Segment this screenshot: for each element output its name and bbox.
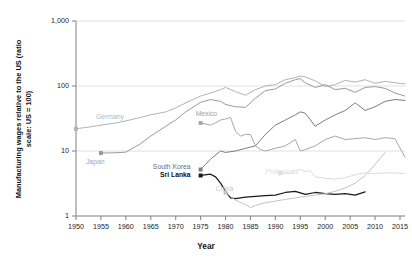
- series-line-germany: [76, 76, 405, 129]
- y-tick-label: 100: [35, 81, 69, 90]
- series-marker-germany: [74, 127, 78, 131]
- y-axis-title-text: Manufacturing wages relative to the US (…: [14, 34, 33, 204]
- series-marker-sri-lanka: [199, 173, 203, 177]
- series-marker-mexico: [199, 121, 203, 125]
- series-line-philippines: [280, 169, 405, 179]
- y-tick-label: 1: [35, 211, 69, 220]
- series-line-china: [226, 152, 386, 207]
- series-marker-japan: [99, 151, 103, 155]
- series-line-south-korea: [201, 99, 405, 169]
- x-axis-title: Year: [0, 242, 412, 251]
- series-label-south-korea: South Korea: [131, 163, 191, 170]
- series-label-germany: Germany: [96, 113, 124, 120]
- y-tick-label: 10: [35, 146, 69, 155]
- series-marker-south-korea: [199, 167, 203, 171]
- series-label-mexico: Mexico: [196, 110, 218, 117]
- y-tick-label: 1,000: [35, 16, 69, 25]
- series-label-philippines: Philippines: [265, 168, 298, 175]
- series-label-sri-lanka: Sri Lanka: [131, 171, 191, 178]
- series-label-china: China: [216, 185, 234, 192]
- chart-container: Manufacturing wages relative to the US (…: [0, 0, 412, 264]
- x-tick-label: 2015: [385, 222, 412, 231]
- series-label-japan: Japan: [86, 158, 105, 165]
- y-axis-title: Manufacturing wages relative to the US (…: [14, 34, 34, 204]
